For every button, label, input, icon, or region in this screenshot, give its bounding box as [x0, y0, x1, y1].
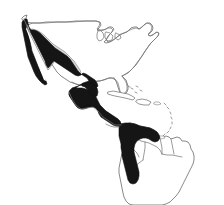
lesser-antilles-chain — [163, 103, 172, 136]
distribution-range-map — [0, 0, 224, 205]
puerto-rico-island — [154, 102, 161, 105]
hispaniola-island — [136, 99, 151, 105]
bahamas-islets — [128, 86, 142, 93]
map-canvas — [0, 0, 224, 205]
